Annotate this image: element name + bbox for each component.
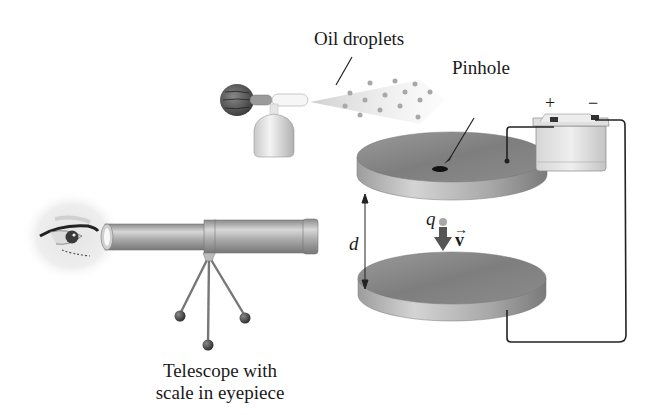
- upper-plate: [357, 118, 547, 200]
- charged-droplet: [434, 218, 452, 251]
- droplet: [439, 218, 447, 226]
- telescope: [22, 191, 318, 351]
- pinhole-label: Pinhole: [452, 57, 510, 79]
- telescope-caption-line-2: scale in eyepiece: [130, 382, 310, 404]
- spray-cone: [310, 80, 445, 124]
- distance-label: d: [349, 233, 359, 255]
- pinhole: [432, 166, 448, 172]
- diagram-canvas: [0, 0, 663, 415]
- battery: [533, 114, 609, 171]
- oil-drop-diagram: Oil droplets Pinhole + − q → v d Telesco…: [0, 0, 663, 415]
- positive-terminal: [550, 117, 558, 122]
- minus-sign-label: −: [588, 93, 598, 114]
- velocity-label: v: [455, 230, 464, 251]
- telescope-eyepiece-tube: [105, 224, 210, 250]
- telescope-caption-line-1: Telescope with: [130, 360, 310, 382]
- oil-droplets-pointer: [336, 57, 352, 85]
- tripod: [180, 258, 245, 345]
- oil-droplets-label: Oil droplets: [314, 28, 404, 50]
- telescope-caption: Telescope with scale in eyepiece: [130, 360, 310, 404]
- charge-label: q: [426, 208, 436, 230]
- plus-sign-label: +: [545, 93, 555, 114]
- atomizer-bottle: [254, 114, 294, 157]
- velocity-arrow-icon: [434, 227, 452, 251]
- telescope-main-tube: [215, 220, 313, 253]
- lower-plate: [358, 252, 546, 321]
